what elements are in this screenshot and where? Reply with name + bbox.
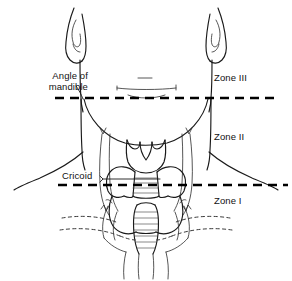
label-cricoid: Cricoid xyxy=(62,170,92,181)
ear-right-group xyxy=(206,8,226,63)
clavicle-left-lower xyxy=(60,229,120,236)
anatomical-drawing xyxy=(0,0,292,281)
clavicle-tail-right xyxy=(156,236,172,240)
clavicle-lines xyxy=(60,216,232,240)
mandible-rami xyxy=(80,60,212,112)
strap-muscles xyxy=(101,200,191,252)
ear-inner-left xyxy=(72,20,81,47)
suprasternal-notch xyxy=(124,252,169,279)
ear-inner-right xyxy=(211,20,220,47)
label-zone-i: Zone I xyxy=(214,195,242,206)
sternocleidomastoid-left xyxy=(100,128,118,215)
trachea xyxy=(134,203,159,254)
label-angle-of-mandible-line1: Angle of xyxy=(52,70,88,81)
label-zone-iii: Zone III xyxy=(214,72,247,83)
clavicle-right-upper xyxy=(176,216,230,222)
clavicle-right-lower xyxy=(172,229,232,236)
label-angle-of-mandible: Angle ofmandible xyxy=(22,70,88,92)
sternocleidomastoid-right xyxy=(174,128,192,215)
label-angle-of-mandible-line2: mandible xyxy=(49,81,88,92)
neck-zones-figure: Angle ofmandible Cricoid Zone III Zone I… xyxy=(0,0,292,281)
clavicle-tail-left xyxy=(120,236,136,240)
jawline-curve xyxy=(84,99,208,145)
label-zone-ii: Zone II xyxy=(214,131,244,142)
ear-left-group xyxy=(66,8,86,63)
clavicle-left-upper xyxy=(62,216,116,222)
thyroid-gland-lower xyxy=(109,196,183,234)
chin-submental-lines xyxy=(117,78,176,98)
